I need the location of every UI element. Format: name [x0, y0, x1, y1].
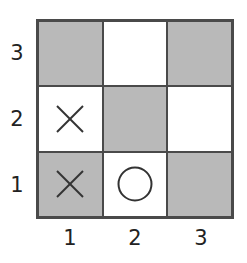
- col-label-1: 1: [55, 226, 85, 250]
- row-label-2: 2: [8, 107, 26, 131]
- cell-r3-c1[interactable]: [38, 21, 103, 86]
- x-mark-icon: [55, 104, 85, 134]
- cell-r2-c3[interactable]: [167, 86, 232, 151]
- cell-r3-c2[interactable]: [103, 21, 168, 86]
- cell-r2-c1[interactable]: [38, 86, 103, 151]
- cell-r1-c3[interactable]: [167, 152, 232, 217]
- x-mark-icon: [55, 169, 85, 199]
- cell-r2-c2[interactable]: [103, 86, 168, 151]
- board-grid: [36, 19, 234, 219]
- col-label-2: 2: [120, 226, 150, 250]
- cell-r1-c1[interactable]: [38, 152, 103, 217]
- o-mark-icon: [116, 165, 154, 203]
- row-label-1: 1: [8, 173, 26, 197]
- col-label-3: 3: [186, 226, 216, 250]
- cell-r1-c2[interactable]: [103, 152, 168, 217]
- row-label-3: 3: [8, 41, 26, 65]
- cell-r3-c3[interactable]: [167, 21, 232, 86]
